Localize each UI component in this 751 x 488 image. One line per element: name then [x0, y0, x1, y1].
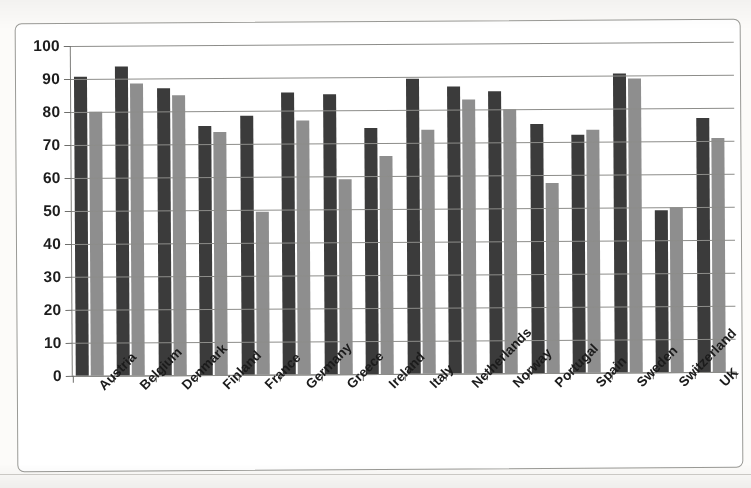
y-axis-tick	[65, 211, 72, 212]
y-axis-tick	[64, 46, 71, 47]
bar-series-2	[256, 211, 270, 374]
screenshot-root: 0102030405060708090100 AustriaBelgiumDen…	[0, 0, 751, 488]
y-axis-tick-label: 40	[43, 235, 61, 253]
bar-series-1	[447, 86, 462, 373]
y-axis-tick-label: 80	[42, 103, 60, 121]
bar-series-1	[405, 78, 420, 373]
bar-series-2	[545, 183, 559, 373]
bar-series-1	[199, 126, 214, 375]
bar-series-2	[214, 132, 228, 375]
bar-series-1	[281, 92, 296, 374]
y-axis-tick-label: 60	[43, 169, 61, 187]
y-axis-tick-label: 70	[43, 136, 61, 154]
bar-series-2	[462, 100, 477, 374]
bar-series-2	[172, 95, 187, 376]
chart-figure: 0102030405060708090100 AustriaBelgiumDen…	[0, 0, 751, 488]
y-axis-tick-label: 20	[44, 301, 62, 319]
y-axis-tick-label: 0	[53, 367, 62, 385]
y-axis-tick-label: 90	[42, 70, 60, 88]
bar-series-1	[240, 116, 255, 375]
y-axis-tick-label: 50	[43, 202, 61, 220]
bar-series-1	[115, 67, 130, 376]
bar-series-2	[628, 79, 643, 373]
y-axis-tick-label: 30	[43, 268, 61, 286]
page-bottom-edge	[0, 474, 751, 475]
bar-series-1	[488, 91, 503, 373]
y-axis-tick	[65, 244, 72, 245]
bar-series-2	[130, 83, 145, 375]
bar-series-1	[157, 88, 172, 375]
bar-series-2	[421, 129, 435, 373]
y-axis-tick	[64, 145, 71, 146]
y-axis-tick	[66, 343, 73, 344]
bar-series-2	[296, 120, 311, 374]
bar-series-1	[696, 118, 711, 372]
x-axis-labels: AustriaBelgiumDenmarkFinlandFranceGerman…	[73, 376, 737, 480]
y-axis-tick	[64, 79, 71, 80]
bar-series-1	[572, 135, 586, 373]
y-axis-tick-label: 100	[33, 37, 60, 55]
bar-series-1	[323, 94, 338, 375]
y-axis-tick	[65, 277, 72, 278]
y-axis-tick	[65, 310, 72, 311]
y-axis-tick	[65, 178, 72, 179]
y-axis-tick-label: 10	[44, 334, 62, 352]
bar-series-1	[613, 74, 628, 373]
y-axis-tick	[66, 376, 73, 377]
bar-series-2	[587, 130, 601, 373]
bar-series-1	[364, 128, 379, 374]
bar-series-1	[74, 77, 89, 376]
y-axis-tick	[64, 112, 71, 113]
plot-area: 0102030405060708090100	[71, 42, 736, 376]
